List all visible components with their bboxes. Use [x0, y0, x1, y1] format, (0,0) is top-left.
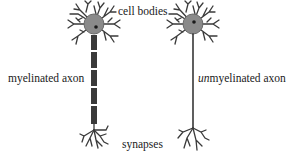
- axon-terminal-right: [178, 128, 209, 150]
- myelin-sheath: [91, 35, 97, 124]
- label-unmyelinated-rest: myelinated axon: [210, 72, 286, 84]
- label-cell-bodies: cell bodies: [118, 6, 168, 18]
- cell-body-left: [84, 14, 104, 34]
- label-unmyelinated-axon: unmyelinated axon: [198, 73, 286, 85]
- label-myelinated-axon: myelinated axon: [8, 73, 84, 85]
- nucleus-right: [192, 20, 196, 24]
- nucleus-left: [94, 25, 98, 29]
- label-synapses: synapses: [122, 139, 163, 151]
- cell-body-right: [183, 14, 203, 34]
- axon-terminal-left: [80, 124, 108, 148]
- label-unmyelinated-prefix: un: [198, 72, 210, 84]
